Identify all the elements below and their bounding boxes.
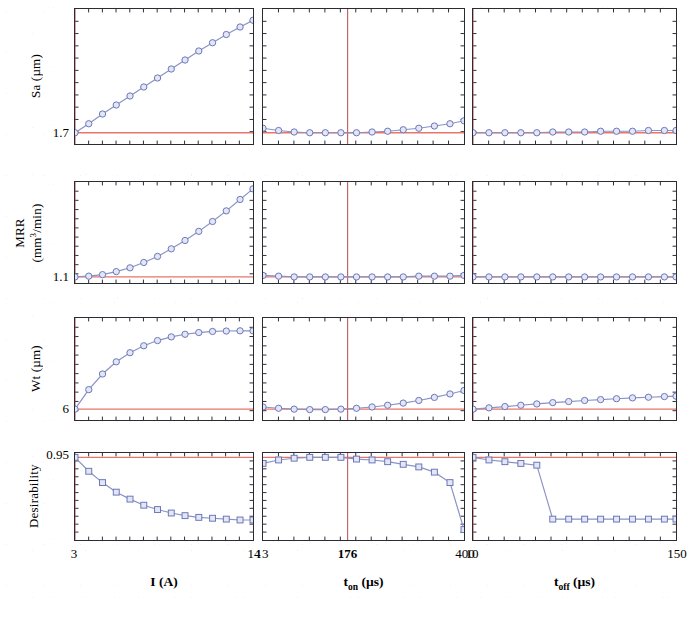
plot-panel-wt-current[interactable] [74,317,254,421]
x-tick-current-3: 3 [44,546,104,562]
plot-panel-sa-current[interactable] [74,8,254,145]
plot-canvas-wt-current [75,318,253,420]
plot-panel-desirability-t_on[interactable] [262,452,465,541]
x-axis-label-subscript: off [559,582,570,592]
plot-canvas-mrr-t_on [263,182,464,283]
y-axis-label-line1: MRR [12,218,27,248]
plot-canvas-sa-t_on [263,9,464,144]
y-target-value-mrr: 1.1 [24,269,69,285]
plot-panel-wt-t_on[interactable] [262,317,465,421]
y-axis-label-desirability: Desirability [26,452,42,541]
x-tick-t_on-13: 13 [232,546,292,562]
y-target-value-desirability: 0.95 [24,447,69,463]
plot-panel-mrr-t_on[interactable] [262,181,465,284]
x-axis-label-t_off: toff (µs) [515,574,635,592]
x-axis-label-t_on: ton (µs) [304,574,424,592]
plot-canvas-wt-t_on [263,318,464,420]
plot-panel-sa-t_off[interactable] [472,8,677,145]
x-axis-label-subscript: on [348,582,358,592]
plot-panel-desirability-current[interactable] [74,452,254,541]
y-target-value-wt: 6 [24,401,69,417]
x-tick-t_on-176: 176 [318,546,378,562]
plot-panel-desirability-t_off[interactable] [472,452,677,541]
plot-panel-mrr-t_off[interactable] [472,181,677,284]
x-axis-label-current: I (A) [104,574,224,590]
plot-canvas-sa-current [75,9,253,144]
x-tick-t_off-10: 10 [442,546,502,562]
plot-panel-sa-t_on[interactable] [262,8,465,145]
y-axis-label-line2: (mm3/min) [29,203,44,262]
plot-panel-mrr-current[interactable] [74,181,254,284]
x-tick-t_off-150: 150 [647,546,691,562]
plot-canvas-wt-t_off [473,318,676,420]
plot-canvas-desirability-t_on [263,453,464,540]
plot-canvas-mrr-current [75,182,253,283]
y-target-value-sa: 1.7 [24,125,69,141]
plot-canvas-sa-t_off [473,9,676,144]
plot-canvas-mrr-t_off [473,182,676,283]
plot-canvas-desirability-t_off [473,453,676,540]
plot-canvas-desirability-current [75,453,253,540]
plot-panel-wt-t_off[interactable] [472,317,677,421]
